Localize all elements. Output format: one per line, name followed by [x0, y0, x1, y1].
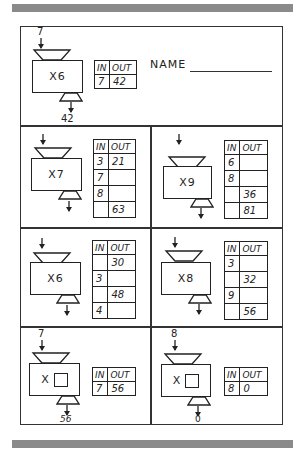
machine-operation: X9 [179, 176, 196, 189]
top-gray-bar [12, 4, 293, 12]
in-header: IN [225, 141, 240, 155]
io-table: INOUT 6 8 36 81 [224, 140, 268, 219]
machine-box: X9 [163, 166, 212, 199]
machine-operation: X6 [47, 272, 64, 285]
output-value: 56 [60, 414, 71, 424]
output-hopper-icon [56, 395, 80, 405]
in-header: IN [93, 368, 108, 382]
out-cell[interactable]: 21 [109, 154, 136, 170]
arrow-down-icon [37, 340, 47, 352]
machine-box: X8 [161, 262, 211, 295]
row-divider-2 [20, 227, 283, 229]
arrow-down-icon [174, 134, 184, 146]
out-header: OUT [110, 61, 137, 75]
out-cell[interactable] [240, 155, 268, 171]
out-cell[interactable]: 56 [240, 304, 268, 320]
machine-box: X [161, 364, 211, 397]
machine-operation: X [173, 374, 182, 387]
out-cell[interactable]: 48 [108, 287, 136, 303]
in-cell[interactable]: 3 [94, 154, 109, 170]
name-label: NAME [150, 58, 186, 71]
in-cell[interactable]: 4 [93, 303, 108, 319]
arrow-down-icon [196, 208, 206, 220]
output-hopper-icon [59, 92, 83, 102]
in-cell[interactable] [225, 203, 240, 219]
in-header: IN [225, 368, 240, 382]
out-header: OUT [240, 242, 268, 256]
input-hopper-icon [164, 250, 204, 262]
in-cell[interactable]: 8 [225, 171, 240, 187]
arrow-down-icon [64, 201, 74, 213]
in-cell: 7 [93, 382, 108, 396]
out-cell: 42 [110, 75, 137, 89]
row-divider-3 [20, 326, 283, 328]
in-cell[interactable] [225, 304, 240, 320]
in-cell[interactable] [94, 202, 109, 218]
input-value: 7 [38, 328, 44, 339]
out-header: OUT [108, 368, 136, 382]
in-cell[interactable]: 8 [94, 186, 109, 202]
out-header: OUT [109, 140, 136, 154]
arrow-down-icon [170, 340, 180, 352]
out-header: OUT [108, 241, 136, 255]
missing-factor-box[interactable] [185, 374, 199, 388]
io-table: INOUT 80 [224, 367, 268, 396]
missing-factor-box[interactable] [54, 373, 68, 387]
output-hopper-icon [56, 294, 80, 304]
machine-box: X6 [30, 262, 81, 295]
output-hopper-icon [190, 198, 214, 208]
machine-box: X6 [32, 60, 83, 93]
out-cell[interactable] [108, 303, 136, 319]
machine-box: X [29, 363, 80, 396]
example-output-value: 42 [61, 113, 74, 124]
in-cell[interactable] [225, 187, 240, 203]
in-header: IN [225, 242, 240, 256]
io-table: INOUT 742 [94, 60, 137, 89]
in-cell[interactable]: 3 [225, 256, 240, 272]
machine-box: X7 [31, 158, 82, 191]
io-table: INOUT 3 32 9 56 [224, 241, 268, 320]
output-hopper-icon [58, 190, 82, 200]
out-cell[interactable]: 30 [108, 255, 136, 271]
machine-operation: X6 [49, 70, 66, 83]
in-cell[interactable]: 9 [225, 288, 240, 304]
in-cell[interactable] [225, 272, 240, 288]
machine-operation: X7 [48, 168, 65, 181]
in-cell[interactable] [93, 287, 108, 303]
output-value: 0 [195, 414, 201, 424]
in-cell[interactable]: 3 [93, 271, 108, 287]
in-cell[interactable] [93, 255, 108, 271]
name-input-line[interactable] [190, 71, 272, 72]
out-cell[interactable] [108, 271, 136, 287]
out-cell[interactable]: 32 [240, 272, 268, 288]
example-input-value: 7 [37, 26, 43, 37]
in-cell: 7 [95, 75, 110, 89]
io-table: INOUT 30 3 48 4 [92, 240, 136, 319]
machine-operation: X8 [178, 272, 195, 285]
in-cell[interactable]: 7 [94, 170, 109, 186]
out-cell[interactable]: 81 [240, 203, 268, 219]
output-hopper-icon [188, 294, 212, 304]
out-header: OUT [240, 141, 268, 155]
out-cell[interactable]: 63 [109, 202, 136, 218]
out-cell[interactable] [109, 186, 136, 202]
machine-operation: X [41, 373, 50, 386]
input-value: 8 [171, 328, 177, 339]
out-cell[interactable] [109, 170, 136, 186]
row-divider-1 [20, 125, 283, 127]
bottom-gray-bar [12, 440, 293, 448]
out-cell[interactable] [240, 171, 268, 187]
arrow-down-icon [38, 134, 48, 146]
arrow-down-icon [194, 304, 204, 316]
out-header: OUT [240, 368, 268, 382]
in-header: IN [95, 61, 110, 75]
out-cell: 56 [108, 382, 136, 396]
out-cell[interactable]: 36 [240, 187, 268, 203]
in-cell[interactable]: 6 [225, 155, 240, 171]
arrow-down-icon [170, 237, 180, 249]
arrow-down-icon [37, 238, 47, 250]
output-hopper-icon [187, 396, 211, 406]
out-cell[interactable] [240, 256, 268, 272]
out-cell[interactable] [240, 288, 268, 304]
io-table: INOUT 756 [92, 367, 136, 396]
